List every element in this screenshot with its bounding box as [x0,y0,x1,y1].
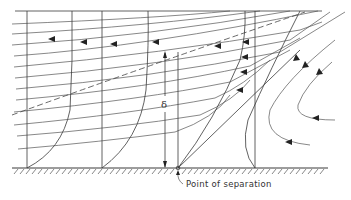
station-lines [27,11,255,168]
delta-label: δ [161,99,167,110]
reverse-flow-streamline-inner [298,62,335,120]
streamlines [12,11,345,149]
boundary-layer-diagram: δ Point of separation [0,0,351,200]
delta-dimension: δ [161,51,167,168]
separation-point-label: Point of separation [186,179,272,189]
boundary-layer-edge-dashed [12,12,305,115]
wall-hatching [14,169,324,174]
wall [12,168,328,174]
